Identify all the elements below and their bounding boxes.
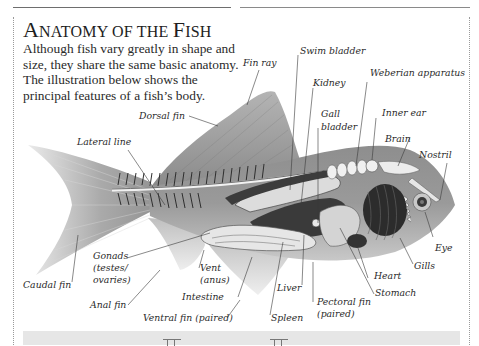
gall-bladder-shape	[312, 219, 320, 227]
label-nostril: Nostril	[419, 149, 452, 160]
label-gall-bladder-line1: Gall	[321, 108, 340, 119]
label-swim-bladder: Swim bladder	[300, 45, 365, 56]
label-lateral-line: Lateral line	[77, 136, 131, 147]
label-stomach: Stomach	[375, 287, 416, 298]
label-eye: Eye	[435, 242, 453, 253]
label-fin-ray: Fin ray	[243, 57, 277, 68]
inner-ear-shape	[366, 160, 378, 172]
label-gonads-line2: (testes/	[93, 262, 128, 273]
caudal-fin-shape	[28, 145, 150, 275]
footer-band	[23, 331, 460, 345]
label-dorsal-fin: Dorsal fin	[139, 110, 185, 121]
label-ventral-fin: Ventral fin (paired)	[143, 312, 233, 323]
label-pectoral-fin-line1: Pectoral fin	[317, 296, 371, 307]
label-brain: Brain	[385, 133, 411, 144]
label-weberian-apparatus: Weberian apparatus	[370, 67, 465, 78]
label-gall-bladder-line2: bladder	[321, 121, 357, 132]
label-liver: Liver	[277, 282, 301, 293]
label-vent-line1: Vent	[200, 262, 221, 273]
heart-shape	[347, 234, 367, 248]
label-caudal-fin: Caudal fin	[23, 279, 71, 290]
label-vent-line2: (anus)	[200, 274, 230, 285]
label-anal-fin: Anal fin	[90, 299, 126, 310]
label-gonads-line1: Gonads	[93, 250, 128, 261]
label-inner-ear: Inner ear	[382, 107, 426, 118]
label-heart: Heart	[374, 270, 401, 281]
label-spleen: Spleen	[271, 312, 303, 323]
label-gills: Gills	[414, 260, 435, 271]
label-kidney: Kidney	[313, 77, 346, 88]
footer-mark	[163, 339, 181, 346]
label-gonads-line3: ovaries)	[93, 274, 131, 285]
label-intestine: Intestine	[182, 291, 224, 302]
label-pectoral-fin-line2: (paired)	[317, 308, 355, 319]
footer-mark	[270, 339, 288, 346]
